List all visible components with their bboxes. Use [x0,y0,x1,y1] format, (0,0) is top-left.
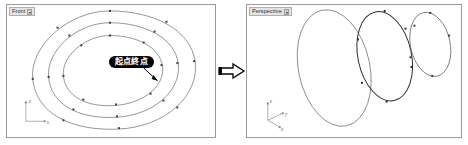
outer-closed-curve[interactable] [32,11,195,129]
viewport-front-canvas: z x [7,5,215,137]
inner-closed-curve[interactable] [63,36,163,106]
axis-gizmo-front: z x [25,98,50,126]
middle-closed-curve[interactable] [48,23,178,118]
outer-curve-control-points [32,10,195,129]
right-arrow-icon [218,62,246,80]
axis-label-y-perspective: y [284,111,288,117]
viewport-perspective-label-chip[interactable]: Perspective [249,7,292,16]
viewport-front-label-chip[interactable]: Front [9,7,35,16]
viewport-front-label-text: Front [12,8,25,15]
small-ellipse[interactable] [404,9,456,81]
callout-start-end-point: 起点終点 [109,56,154,68]
axis-gizmo-perspective: z y x [267,99,288,133]
chevron-down-icon[interactable] [27,9,32,15]
screenshot-root: Front [0,0,468,145]
medium-ellipse[interactable] [349,6,420,106]
viewport-perspective-canvas: z y x [247,5,461,137]
axis-label-x-front: x [46,119,50,125]
axis-label-x-perspective: x [280,126,284,132]
viewport-front[interactable]: Front [6,4,216,138]
medium-ellipse-control-points [357,10,412,103]
callout-pointer-line [144,68,158,81]
viewport-perspective-label-text: Perspective [252,8,282,15]
callout-start-end-point-text: 起点終点 [115,57,148,67]
viewport-perspective[interactable]: Perspective [246,4,462,138]
axis-label-z-perspective: z [269,99,273,105]
chevron-down-icon[interactable] [284,9,289,15]
small-ellipse-control-points [409,12,450,77]
axis-label-z-front: z [28,98,32,104]
large-ellipse[interactable] [287,5,381,133]
